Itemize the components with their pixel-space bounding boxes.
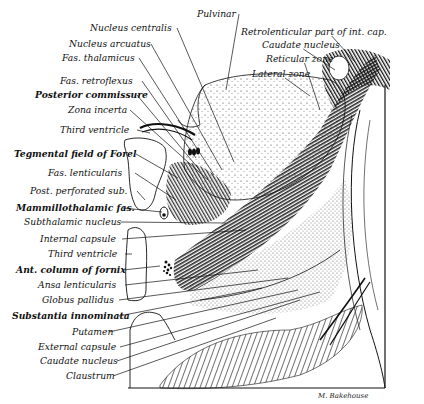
label-posterior-commissure: Posterior commissure [35,89,148,100]
anatomical-figure: PulvinarNucleus centralisNucleus arcuatu… [0,0,424,404]
label-subthalamic-nucleus: Subthalamic nucleus [24,216,121,227]
label-ansa-lenticularis: Ansa lenticularis [38,279,116,290]
label-lateral-zone: Lateral zone [252,68,310,79]
label-fas-retroflexus: Fas. retroflexus [60,75,133,86]
leader-subthalamic-nucleus [121,222,226,223]
label-third-ventricle-upper: Third ventricle [60,124,129,135]
label-claustrum: Claustrum [66,370,115,381]
label-nucleus-arcuatus: Nucleus arcuatus [69,38,151,49]
label-retrolenticular-part: Retrolenticular part of int. cap. [241,26,387,37]
label-substantia-innominata: Substantia innominata [12,310,130,321]
label-tegmental-field-of-forel: Tegmental field of Forel [14,148,136,159]
label-fas-lenticularis: Fas. lenticularis [48,167,122,178]
leader-fas-retroflexus [142,81,196,158]
label-ant-column-of-fornix: Ant. column of fornix [16,264,126,275]
label-pulvinar: Pulvinar [197,8,236,19]
label-putamen: Putamen [72,326,113,337]
label-mammillothalamic-fas: Mammillothalamic fas. [16,202,135,213]
leader-ant-column-of-fornix [123,266,160,270]
label-third-ventricle-lower: Third ventricle [48,248,117,259]
label-caudate-nucleus-lower: Caudate nucleus [40,355,118,366]
label-fas-thalamicus: Fas. thalamicus [62,52,135,63]
label-post-perforated-sub: Post. perforated sub. [30,185,127,196]
label-reticular-zone: Reticular zone [266,53,334,64]
label-globus-pallidus: Globus pallidus [42,294,114,305]
illustrator-signature: M. Bakehouse [318,392,368,400]
leader-post-perforated-sub [137,191,145,200]
label-external-capsule: External capsule [38,341,116,352]
label-zona-incerta: Zona incerta [68,104,127,115]
label-internal-capsule: Internal capsule [40,233,116,244]
label-caudate-nucleus-upper: Caudate nucleus [262,39,340,50]
label-nucleus-centralis: Nucleus centralis [90,22,172,33]
